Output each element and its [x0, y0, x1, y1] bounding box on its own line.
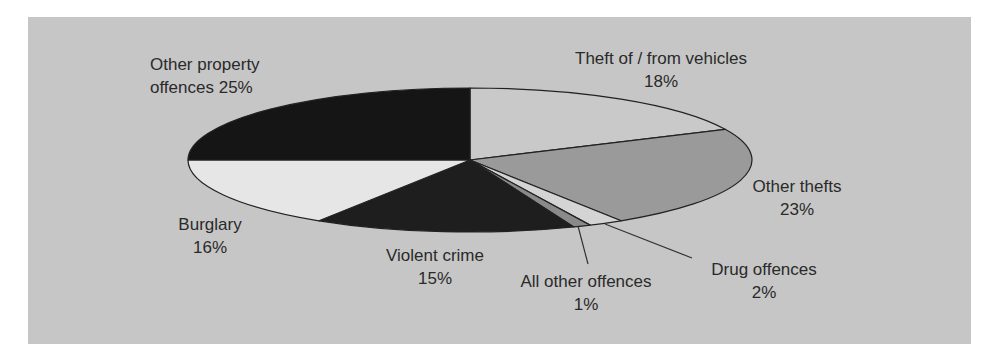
leader-line-drug-offences: [605, 224, 692, 258]
label-theft-vehicles-pct: 18%: [575, 70, 747, 93]
label-other-thefts-pct: 23%: [753, 198, 842, 221]
label-drug-offences: Drug offences 2%: [711, 258, 817, 304]
label-all-other-offences-name: All other offences: [520, 270, 651, 293]
label-other-property: Other property offences 25%: [150, 53, 260, 99]
label-other-thefts: Other thefts 23%: [753, 175, 842, 221]
label-burglary-name: Burglary: [178, 213, 241, 236]
label-violent-crime-pct: 15%: [386, 267, 484, 290]
label-drug-offences-pct: 2%: [711, 281, 817, 304]
label-drug-offences-name: Drug offences: [711, 258, 817, 281]
label-burglary-pct: 16%: [178, 236, 241, 259]
label-other-thefts-name: Other thefts: [753, 175, 842, 198]
label-other-property-name: Other property: [150, 53, 260, 76]
label-all-other-offences-pct: 1%: [520, 293, 651, 316]
label-theft-vehicles-name: Theft of / from vehicles: [575, 47, 747, 70]
label-violent-crime-name: Violent crime: [386, 244, 484, 267]
label-all-other-offences: All other offences 1%: [520, 270, 651, 316]
label-burglary: Burglary 16%: [178, 213, 241, 259]
label-other-property-pct: offences 25%: [150, 76, 260, 99]
label-violent-crime: Violent crime 15%: [386, 244, 484, 290]
leader-line-all-other-offences: [578, 226, 588, 264]
label-theft-vehicles: Theft of / from vehicles 18%: [575, 47, 747, 93]
